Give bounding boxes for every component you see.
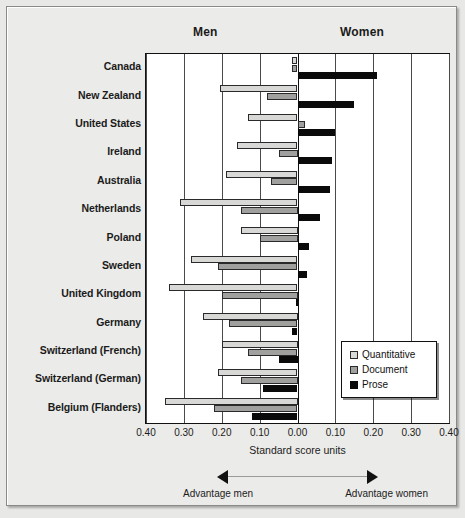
bar-quantitative-belgium-flanders xyxy=(165,398,298,405)
bar-document-netherlands xyxy=(241,207,298,214)
chart-row xyxy=(146,253,449,281)
bar-document-switzerland-german xyxy=(241,377,298,384)
chart-page: Men Women CanadaNew ZealandUnited States… xyxy=(0,0,465,518)
category-label: United States xyxy=(15,117,141,129)
arrow-left-icon xyxy=(217,470,228,484)
x-tick-label: 0.40 xyxy=(136,427,155,438)
bar-document-united-kingdom xyxy=(222,292,298,299)
legend-swatch-icon xyxy=(350,351,358,359)
chart-row xyxy=(146,224,449,252)
bar-quantitative-germany xyxy=(203,313,298,320)
advantage-indicator: Advantage men Advantage women xyxy=(145,467,450,511)
bar-prose-united-states xyxy=(298,129,336,136)
legend-item[interactable]: Quantitative xyxy=(350,347,430,362)
bar-prose-united-kingdom xyxy=(296,299,298,306)
bar-document-germany xyxy=(229,320,297,327)
bar-document-canada xyxy=(292,65,298,72)
bar-prose-canada xyxy=(298,72,378,79)
chart-row xyxy=(146,309,449,337)
bar-quantitative-netherlands xyxy=(180,199,297,206)
bar-document-switzerland-french xyxy=(248,349,297,356)
chart-row xyxy=(146,395,449,423)
bar-quantitative-switzerland-german xyxy=(218,369,298,376)
bar-prose-belgium-flanders xyxy=(252,413,297,420)
bar-document-poland xyxy=(260,235,298,242)
x-tick-label: 0.30 xyxy=(174,427,193,438)
advantage-women-label: Advantage women xyxy=(345,488,428,499)
legend-label: Quantitative xyxy=(362,349,415,360)
category-label: New Zealand xyxy=(15,89,141,101)
bar-prose-poland xyxy=(298,243,309,250)
chart-row xyxy=(146,54,449,82)
chart-row xyxy=(146,139,449,167)
x-tick-label: 0.10 xyxy=(250,427,269,438)
category-label: Canada xyxy=(15,60,141,72)
legend-swatch-icon xyxy=(350,366,358,374)
bar-quantitative-canada xyxy=(292,57,298,64)
bar-quantitative-switzerland-french xyxy=(222,341,298,348)
chart-row xyxy=(146,281,449,309)
advantage-men-label: Advantage men xyxy=(183,488,253,499)
axis-title: Standard score units xyxy=(145,444,450,456)
category-label: United Kingdom xyxy=(15,287,141,299)
category-label: Sweden xyxy=(15,259,141,271)
bar-prose-switzerland-french xyxy=(279,356,298,363)
bar-document-new-zealand xyxy=(267,93,297,100)
category-label: Switzerland (German) xyxy=(15,372,141,384)
category-label: Germany xyxy=(15,316,141,328)
arrow-right-icon xyxy=(367,470,378,484)
bar-quantitative-united-states xyxy=(248,114,297,121)
legend-item[interactable]: Prose xyxy=(350,377,430,392)
category-label: Belgium (Flanders) xyxy=(15,401,141,413)
bar-prose-switzerland-german xyxy=(263,385,297,392)
value-axis-ticks: 0.400.300.200.100.000.100.200.300.40 xyxy=(145,427,450,443)
x-tick-label: 0.40 xyxy=(439,427,458,438)
chart-legend: QuantitativeDocumentProse xyxy=(341,341,437,398)
category-label: Australia xyxy=(15,174,141,186)
bar-prose-australia xyxy=(298,186,330,193)
bar-prose-ireland xyxy=(298,157,332,164)
bar-document-belgium-flanders xyxy=(214,405,297,412)
chart-frame: Men Women CanadaNew ZealandUnited States… xyxy=(6,6,457,506)
bar-prose-new-zealand xyxy=(298,101,355,108)
x-tick-label: 0.10 xyxy=(326,427,345,438)
category-axis: CanadaNew ZealandUnited StatesIrelandAus… xyxy=(15,53,141,424)
x-tick-label: 0.00 xyxy=(288,427,307,438)
group-label-men: Men xyxy=(193,25,218,39)
category-label: Ireland xyxy=(15,145,141,157)
bar-document-australia xyxy=(271,178,298,185)
group-label-women: Women xyxy=(340,25,384,39)
chart-row xyxy=(146,82,449,110)
x-tick-label: 0.30 xyxy=(401,427,420,438)
category-label: Poland xyxy=(15,231,141,243)
bar-quantitative-australia xyxy=(226,171,298,178)
category-label: Switzerland (French) xyxy=(15,344,141,356)
advantage-line xyxy=(225,476,370,477)
chart-row xyxy=(146,168,449,196)
bar-quantitative-new-zealand xyxy=(220,85,298,92)
bar-quantitative-poland xyxy=(241,227,298,234)
legend-item[interactable]: Document xyxy=(350,362,430,377)
bar-document-ireland xyxy=(279,150,298,157)
bar-prose-sweden xyxy=(298,271,307,278)
bar-quantitative-ireland xyxy=(237,142,298,149)
bar-quantitative-sweden xyxy=(191,256,297,263)
bar-prose-netherlands xyxy=(298,214,321,221)
bar-prose-germany xyxy=(292,328,298,335)
legend-label: Document xyxy=(362,364,408,375)
x-tick-label: 0.20 xyxy=(364,427,383,438)
bar-document-sweden xyxy=(218,263,298,270)
legend-swatch-icon xyxy=(350,381,358,389)
gridline-8 xyxy=(449,54,450,423)
x-tick-label: 0.20 xyxy=(212,427,231,438)
category-label: Netherlands xyxy=(15,202,141,214)
chart-row xyxy=(146,196,449,224)
bar-document-united-states xyxy=(298,121,306,128)
legend-label: Prose xyxy=(362,379,388,390)
chart-row xyxy=(146,111,449,139)
bar-quantitative-united-kingdom xyxy=(169,284,298,291)
